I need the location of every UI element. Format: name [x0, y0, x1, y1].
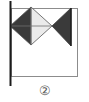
figure-caption-label: ② [0, 83, 89, 98]
figure-container: ② [0, 0, 89, 102]
